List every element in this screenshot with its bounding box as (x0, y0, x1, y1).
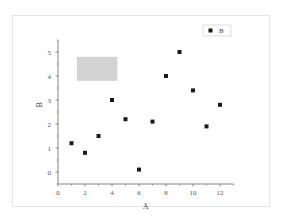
legend-marker-square-icon (209, 29, 213, 33)
legend-box (203, 25, 231, 36)
y-tick-label: 4 (48, 73, 52, 81)
data-point-square-icon (205, 124, 209, 128)
data-point-square-icon (83, 151, 87, 155)
y-tick-label: 5 (48, 49, 52, 57)
data-point-square-icon (164, 74, 168, 78)
scatter-chart: 012345024681012 A B B (0, 0, 282, 224)
x-tick-label: 4 (110, 189, 114, 197)
y-tick-label: 1 (48, 145, 52, 153)
highlight-rectangle (77, 57, 118, 81)
y-tick-label: 2 (48, 121, 52, 129)
x-tick-label: 12 (217, 189, 225, 197)
x-tick-label: 8 (164, 189, 168, 197)
data-point-square-icon (124, 117, 128, 121)
data-point-square-icon (178, 50, 182, 54)
data-point-square-icon (218, 103, 222, 107)
axes: 012345024681012 (48, 40, 234, 197)
x-axis-title: A (143, 202, 149, 211)
x-tick-label: 2 (83, 189, 87, 197)
data-point-square-icon (97, 134, 101, 138)
x-tick-label: 6 (137, 189, 141, 197)
x-tick-label: 10 (190, 189, 198, 197)
data-point-square-icon (191, 88, 195, 92)
data-point-square-icon (151, 120, 155, 124)
legend-label: B (219, 27, 224, 35)
data-point-square-icon (70, 141, 74, 145)
highlight-rect (77, 57, 118, 81)
legend[interactable]: B (203, 25, 231, 36)
y-tick-label: 3 (48, 97, 52, 105)
y-axis-title: B (35, 102, 44, 107)
x-tick-label: 0 (56, 189, 60, 197)
data-point-square-icon (110, 98, 114, 102)
y-tick-label: 0 (48, 169, 52, 177)
data-point-square-icon (137, 168, 141, 172)
